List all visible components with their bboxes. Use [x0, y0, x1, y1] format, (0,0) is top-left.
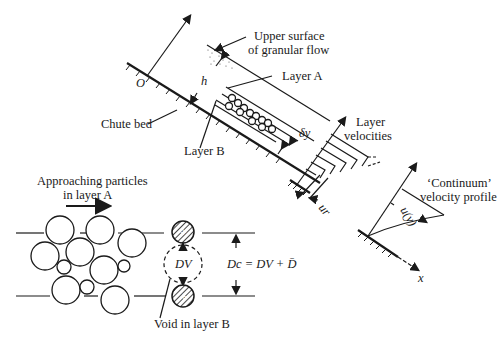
- layer-velocities-label-1: Layer: [356, 115, 386, 129]
- void-pointer: [160, 279, 170, 318]
- chute-bed-label: Chute bed: [101, 117, 153, 131]
- svg-text:+: +: [180, 228, 187, 237]
- upper-surface-label-2: of granular flow: [248, 43, 329, 57]
- approaching-particle-cluster: [31, 216, 146, 314]
- u-r-label: ur: [316, 201, 334, 219]
- x-axis-label: x: [417, 271, 424, 285]
- chute-bed-pointer: [148, 110, 177, 124]
- y-axis-arrow: [147, 16, 190, 76]
- void-label: Void in layer B: [154, 317, 230, 331]
- x-axis-arrow: [398, 257, 418, 270]
- h-arrow-top: [216, 58, 222, 66]
- void-diameter-label: DV: [174, 257, 193, 271]
- layer-b-pointer: [200, 101, 216, 148]
- delta-y-label: δy: [299, 126, 311, 140]
- depth-h-label: h: [201, 74, 207, 88]
- approaching-label-1: Approaching particles: [37, 174, 148, 188]
- delta-y-arrow-top: [290, 138, 294, 144]
- upper-surface-label-1: Upper surface: [254, 29, 325, 43]
- approaching-label-2: in layer A: [63, 188, 112, 202]
- layer-velocities-label-2: velocities: [344, 129, 392, 143]
- layer-b-label: Layer B: [184, 144, 225, 158]
- granular-chute-flow-diagram: O Upper surface of granular flow h Layer…: [0, 0, 498, 340]
- layer-a-label: Layer A: [282, 69, 323, 83]
- origin-label: O: [136, 76, 145, 90]
- continuum-label-1: ‘Continuum’: [427, 176, 492, 190]
- delta-y-arrow-bottom: [278, 148, 282, 154]
- continuum-label-2: velocity profile: [420, 190, 497, 204]
- h-arrow-bottom: [191, 93, 197, 103]
- u-of-y-label: u(y): [397, 204, 420, 228]
- svg-text:+: +: [180, 292, 187, 301]
- continuum-bed-line: [358, 230, 398, 257]
- layer-a-pointer: [228, 76, 272, 88]
- critical-diameter-equation: Dc = DV + D̄: [226, 257, 296, 271]
- upper-surface-pointer: [216, 37, 246, 50]
